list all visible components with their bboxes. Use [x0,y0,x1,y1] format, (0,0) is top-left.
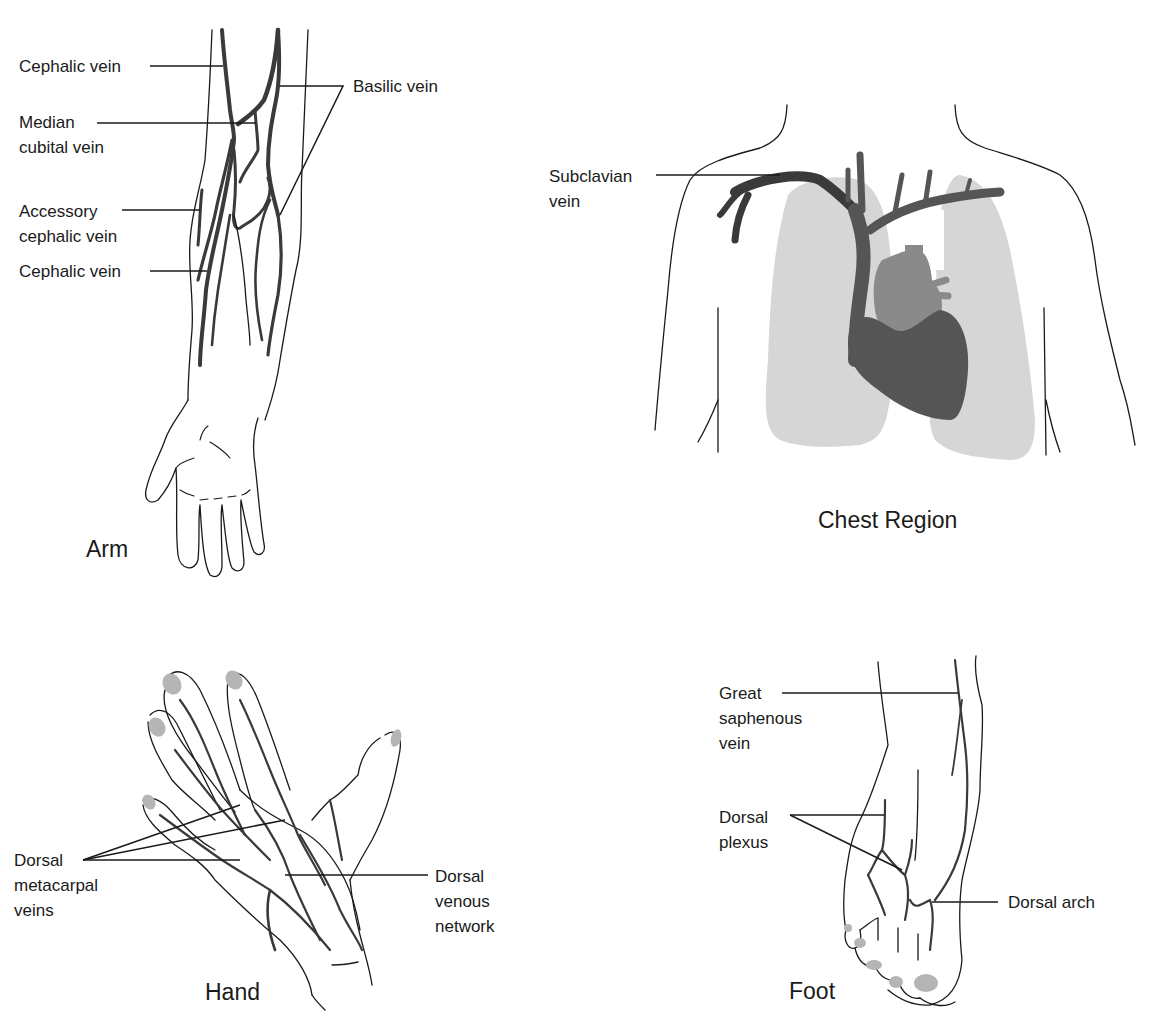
anatomy-illustrations [0,0,1168,1029]
caption-hand: Hand [205,978,260,1006]
label-basilic-vein: Basilic vein [353,74,438,99]
label-cephalic-vein-upper: Cephalic vein [19,54,121,79]
hand-leader-lines [83,805,428,875]
label-cephalic-vein-lower: Cephalic vein [19,259,121,284]
label-dorsal-metacarpal-veins: Dorsal metacarpal veins [14,848,98,923]
label-subclavian-vein: Subclavian vein [549,164,632,214]
label-dorsal-arch: Dorsal arch [1008,890,1095,915]
chest-illustration [655,105,1135,460]
label-accessory-cephalic-vein: Accessory cephalic vein [19,199,117,249]
arm-leader-lines [97,66,343,271]
arm-illustration [146,30,308,577]
label-dorsal-plexus: Dorsal plexus [719,805,768,855]
caption-foot: Foot [789,977,835,1005]
label-great-saphenous-vein: Great saphenous vein [719,681,802,756]
hand-illustration [140,667,403,1010]
label-dorsal-venous-network: Dorsal venous network [435,864,495,939]
label-median-cubital-vein: Median cubital vein [19,110,104,160]
foot-leader-lines [782,693,998,902]
caption-chest-region: Chest Region [818,506,957,534]
foot-illustration [844,656,983,1005]
venipuncture-sites-figure: Cephalic vein Basilic vein Median cubita… [0,0,1168,1029]
caption-arm: Arm [86,535,128,563]
